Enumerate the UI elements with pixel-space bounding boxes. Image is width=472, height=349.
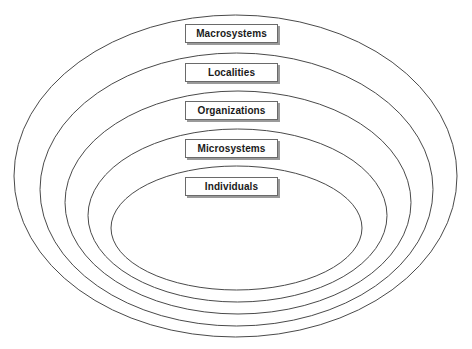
label-microsystems: Microsystems <box>185 139 278 158</box>
nested-ellipses-diagram <box>0 0 472 349</box>
label-macrosystems: Macrosystems <box>185 24 278 43</box>
label-localities: Localities <box>185 63 278 82</box>
label-organizations: Organizations <box>185 101 278 120</box>
label-individuals: Individuals <box>185 177 278 196</box>
ellipse-organizations <box>65 91 411 314</box>
